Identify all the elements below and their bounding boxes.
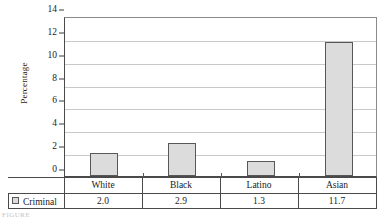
legend-swatch-icon bbox=[12, 197, 19, 204]
y-tick-label-8: 8 bbox=[31, 74, 57, 84]
bar-asian bbox=[325, 42, 353, 176]
table-row-categories: White Black Latino Asian bbox=[8, 177, 377, 193]
legend-label: Criminal bbox=[23, 197, 57, 207]
y-tick-label-0: 0 bbox=[31, 165, 57, 175]
y-tick-label-10: 10 bbox=[31, 51, 57, 61]
table-cell-category-white: White bbox=[64, 177, 142, 193]
bar-chart-figure: Percentage 14 12 10 8 6 4 2 0 bbox=[0, 0, 385, 219]
plot-area bbox=[64, 17, 377, 177]
bars-layer bbox=[65, 18, 376, 176]
y-axis-ticks: 14 12 10 8 6 4 2 0 bbox=[30, 10, 64, 190]
y-tick-label-14: 14 bbox=[31, 5, 57, 15]
table-cell-category-asian: Asian bbox=[298, 177, 376, 193]
data-table: White Black Latino Asian Criminal 2.0 2.… bbox=[8, 177, 377, 209]
figure-caption: FIGURE bbox=[2, 211, 30, 219]
legend-entry-criminal: Criminal bbox=[8, 193, 64, 209]
table-row-values: Criminal 2.0 2.9 1.3 11.7 bbox=[8, 193, 377, 209]
bar-black bbox=[168, 143, 196, 176]
bar-white bbox=[90, 153, 118, 176]
table-cell-category-black: Black bbox=[142, 177, 220, 193]
y-tick-label-6: 6 bbox=[31, 97, 57, 107]
table-cell-value-black: 2.9 bbox=[142, 193, 220, 209]
bar-latino bbox=[247, 161, 275, 176]
table-cell-value-white: 2.0 bbox=[64, 193, 142, 209]
y-tick-label-12: 12 bbox=[31, 28, 57, 38]
table-cell-category-latino: Latino bbox=[220, 177, 298, 193]
y-tick-label-2: 2 bbox=[31, 142, 57, 152]
table-cell-value-asian: 11.7 bbox=[298, 193, 376, 209]
table-cell-value-latino: 1.3 bbox=[220, 193, 298, 209]
y-tick-label-4: 4 bbox=[31, 120, 57, 130]
y-tick-mark-14 bbox=[59, 10, 64, 11]
y-axis-title: Percentage bbox=[19, 33, 29, 133]
